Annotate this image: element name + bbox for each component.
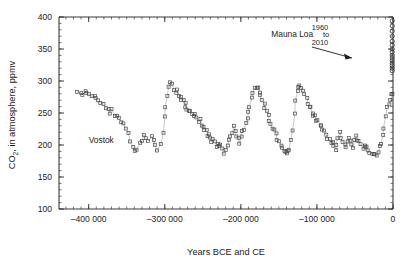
- y-tick-label: 400: [38, 12, 53, 22]
- chart-canvas: –400 000–300 000–200 000–100 00001001502…: [0, 0, 412, 264]
- x-axis-title: Years BCE and CE: [187, 247, 265, 257]
- y-tick-label: 350: [38, 44, 53, 54]
- mauna-loa-year-end: 2010: [312, 38, 328, 47]
- y-tick-label: 300: [38, 76, 53, 86]
- y-axis-title-main: CO: [7, 155, 17, 169]
- y-tick-label: 200: [38, 140, 53, 150]
- y-axis-title-rest: , in atmosphere, ppmv: [7, 60, 17, 151]
- co2-chart: –400 000–300 000–200 000–100 00001001502…: [0, 0, 412, 264]
- mauna-loa-label: Mauna Loa: [271, 29, 313, 39]
- y-tick-label: 100: [38, 204, 53, 214]
- vostok-label: Vostok: [89, 135, 115, 145]
- y-tick-label: 250: [38, 108, 53, 118]
- y-tick-label: 150: [38, 172, 53, 182]
- x-tick-label: 0: [391, 214, 396, 224]
- x-tick-label: –300 000: [147, 214, 183, 224]
- x-tick-label: –400 000: [71, 214, 107, 224]
- x-tick-label: –200 000: [223, 214, 259, 224]
- x-tick-label: –100 000: [299, 214, 335, 224]
- chart-background: [0, 0, 412, 264]
